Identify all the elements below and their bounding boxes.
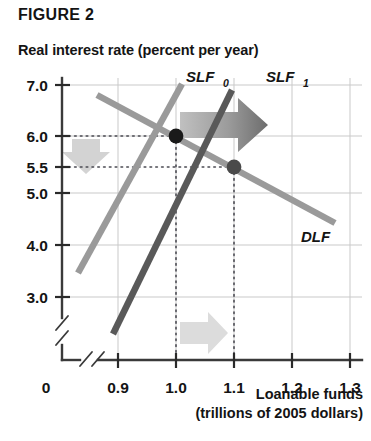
y-tick-label-5-5: 5.5: [26, 159, 48, 176]
initial-equilibrium-point: [169, 129, 184, 144]
interest-rate-fall-arrow: [62, 139, 110, 174]
y-tick-label-6-0: 6.0: [26, 128, 48, 145]
curve-label-slf1: SLF 1: [266, 68, 309, 89]
y-tick-label-3-0: 3.0: [26, 289, 48, 306]
y-tick-label-4-0: 4.0: [26, 237, 48, 254]
chart-plot: 7.0 6.0 5.5 5.0 4.0 3.0 0 0.9 1.0 1.1 1.…: [0, 0, 371, 441]
y-tick-label-5-0: 5.0: [26, 185, 48, 202]
x-tick-label-1-0: 1.0: [165, 379, 187, 396]
figure-container: FIGURE 2 Real interest rate (percent per…: [0, 0, 371, 441]
x-axis-title: Loanable funds (trillions of 2005 dollar…: [195, 385, 363, 422]
new-equilibrium-point: [227, 160, 242, 175]
curve-label-slf1-sub: 1: [303, 77, 309, 89]
curve-label-slf0: SLF 0: [186, 68, 229, 89]
curve-label-dlf-text: DLF: [301, 228, 331, 245]
curve-label-dlf: DLF: [301, 228, 331, 245]
x-axis-break-1: [80, 352, 92, 366]
curve-label-slf0-base: SLF: [186, 68, 215, 85]
curve-label-slf1-base: SLF: [266, 68, 295, 85]
curve-label-slf0-sub: 0: [223, 77, 229, 89]
x-axis-title-line1: Loanable funds: [195, 385, 363, 404]
y-tick-label-7-0: 7.0: [26, 77, 48, 94]
quantity-increase-arrow: [180, 312, 228, 354]
x-tick-label-0-9: 0.9: [107, 379, 129, 396]
x-axis-title-line2: (trillions of 2005 dollars): [195, 404, 363, 423]
y-tick-labels: 7.0 6.0 5.5 5.0 4.0 3.0: [26, 77, 48, 306]
y-axis-break-2: [56, 331, 68, 345]
x-tick-label-0: 0: [42, 379, 51, 396]
